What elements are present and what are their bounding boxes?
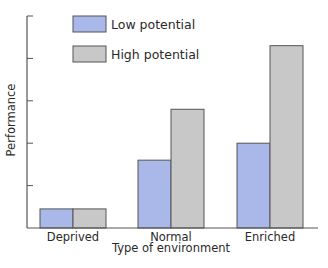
y-ticks	[27, 16, 33, 186]
y-axis-label: Performance	[4, 84, 18, 157]
x-axis-label: Type of environment	[111, 241, 231, 255]
bar-chart: DeprivedNormalEnriched Type of environme…	[0, 0, 328, 268]
bar-normal-high-potential	[171, 109, 204, 228]
bar-deprived-high-potential	[73, 209, 106, 228]
bars-group	[40, 46, 303, 228]
bar-normal-low-potential	[138, 160, 171, 228]
bar-deprived-low-potential	[40, 209, 73, 228]
x-tick-label: Deprived	[47, 230, 99, 244]
legend-label: High potential	[111, 47, 199, 62]
bar-enriched-low-potential	[237, 143, 270, 228]
legend-swatch	[73, 46, 106, 62]
legend-label: Low potential	[111, 17, 195, 32]
legend: Low potentialHigh potential	[73, 16, 199, 62]
bar-enriched-high-potential	[270, 46, 303, 228]
legend-swatch	[73, 16, 106, 32]
x-tick-label: Enriched	[245, 230, 295, 244]
